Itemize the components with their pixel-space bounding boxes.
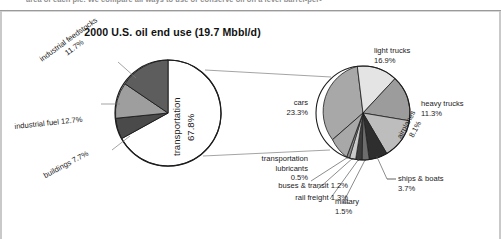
label-transportation-pct: 67.8% [186, 114, 196, 141]
label-heavy-trucks: heavy trucks 11.3% [421, 99, 464, 118]
label-lubricants: transportation lubricants 0.5% [196, 154, 308, 183]
left-pie [115, 60, 221, 166]
label-ships-boats: ships & boats 3.7% [398, 174, 444, 193]
label-cars: cars 23.3% [236, 98, 308, 117]
figure-root: area of each pie. We compare all ways to… [0, 0, 501, 239]
label-light-trucks: light trucks 16.9% [374, 46, 410, 65]
label-transportation: transportation [172, 97, 182, 156]
label-rail-freight: rail freight 1.3% [180, 193, 348, 203]
right-pie [316, 66, 410, 160]
